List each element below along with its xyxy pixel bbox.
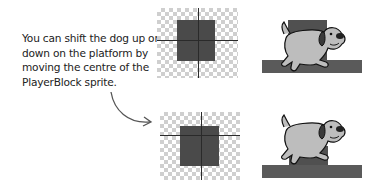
crosshair-vertical	[198, 8, 199, 78]
curved-arrow-icon	[100, 88, 160, 133]
caption-text: You can shift the dog up or down on the …	[22, 31, 162, 89]
dog-sprite-icon	[276, 113, 348, 169]
dog-sprite-icon	[276, 20, 348, 76]
crosshair-horizontal	[160, 135, 240, 136]
playerblock-sprite	[180, 126, 219, 166]
crosshair-vertical	[201, 112, 202, 180]
